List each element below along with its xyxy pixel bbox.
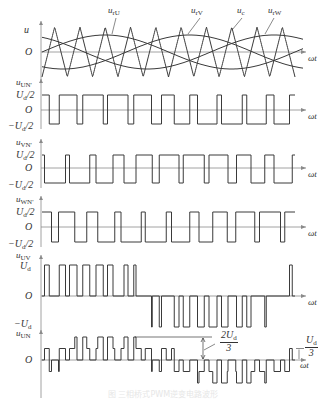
uVN_prime-x-label: ωt [308, 170, 317, 179]
curve-label-rU: urU [108, 6, 120, 17]
uWN_prime-panel-y-arrow-icon [39, 196, 43, 200]
leader-line [232, 18, 242, 30]
uUN-panel-y-arrow-icon [39, 330, 43, 334]
uVN_prime-origin-label: O [25, 163, 32, 173]
curve-label-rW: urW [268, 6, 281, 17]
figure-caption: 图 三相桥式PWM逆变电路波形 [0, 388, 326, 399]
pwm-waveform-figure [0, 0, 326, 400]
leader-line [112, 18, 116, 34]
uUV-x-label: ωt [308, 298, 317, 307]
uVN_prime-high-label: Ud/2 [16, 150, 35, 162]
uUN-origin-label: O [25, 355, 32, 365]
uVN_prime-panel-y-arrow-icon [39, 139, 43, 143]
uUN-waveform [42, 337, 295, 383]
uUN-y-label: uUN [16, 329, 31, 340]
carrier-panel-y-label: u [24, 25, 29, 35]
leader-line [265, 18, 274, 34]
uVN_prime-low-label: −Ud/2 [8, 180, 33, 192]
uUV-panel-x-arrow-icon [301, 294, 306, 298]
axes [39, 18, 306, 398]
uWN_prime-y-label: uWN' [16, 195, 33, 206]
uUN_prime-waveform [42, 95, 295, 124]
leader-line [188, 18, 200, 34]
curve-label-rV: urV [191, 6, 203, 17]
carrier-panel-x-arrow-icon [301, 50, 306, 54]
uUN-x-label: ωt [300, 361, 309, 370]
uUN_prime-panel-y-arrow-icon [39, 79, 43, 83]
uUN_prime-low-label: −Ud/2 [8, 121, 33, 133]
uUN_prime-y-label: uUN' [16, 78, 32, 89]
carrier-panel-origin-label: O [25, 47, 32, 57]
uUN_prime-panel-x-arrow-icon [301, 108, 306, 112]
uUN_prime-origin-label: O [25, 105, 32, 115]
carrier-panel-x-label: ωt [308, 54, 317, 63]
uUV-panel-y-arrow-icon [39, 255, 43, 259]
uUN_prime-high-label: Ud/2 [16, 90, 35, 102]
uWN_prime-panel-x-arrow-icon [301, 225, 306, 229]
uUV-origin-label: O [25, 291, 32, 301]
carrier-panel-y-arrow-icon [39, 21, 43, 25]
uVN_prime-y-label: uVN' [16, 138, 32, 149]
waveforms [42, 27, 303, 383]
leader-line [204, 344, 215, 350]
uVN_prime-waveform [42, 155, 295, 183]
uUN_prime-x-label: ωt [308, 112, 317, 121]
curve-label-c: uc [237, 6, 245, 17]
uWN_prime-origin-label: O [25, 222, 32, 232]
uWN_prime-high-label: Ud/2 [16, 207, 35, 219]
two-thirds-Ud-label: 2Ud3 [220, 330, 238, 353]
uUV-high-label: Ud [20, 261, 31, 273]
uWN_prime-x-label: ωt [308, 229, 317, 238]
one-third-Ud-label: Ud3 [305, 335, 318, 358]
uUV-waveform [42, 265, 295, 327]
uVN_prime-panel-x-arrow-icon [301, 166, 306, 170]
